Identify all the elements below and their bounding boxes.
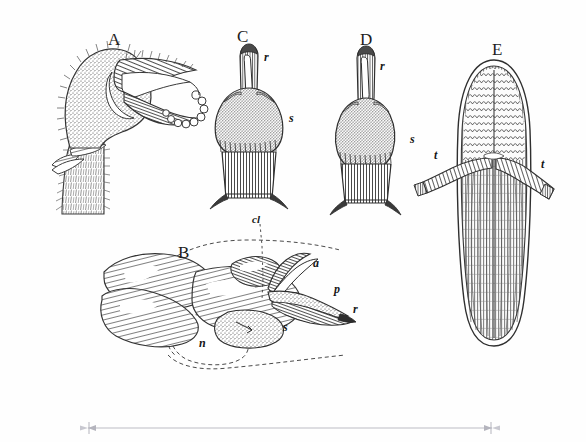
engraving-plate [0, 0, 586, 442]
part-label-s-b: s [283, 321, 288, 333]
part-label-a: a [313, 257, 319, 269]
part-label-t-right: t [541, 158, 544, 170]
figure-letter-d: D [360, 31, 373, 48]
part-label-p: p [334, 283, 340, 295]
part-label-s-d: s [410, 133, 415, 145]
part-label-cl: cl [252, 214, 260, 225]
part-label-s-c: s [289, 112, 294, 124]
part-label-t-left: t [434, 149, 437, 161]
part-label-r-b: r [353, 303, 358, 315]
figure-letter-b: B [178, 244, 190, 261]
figure-letter-c: C [237, 28, 249, 45]
figure-letter-e: E [492, 41, 503, 58]
part-label-r-d: r [380, 60, 385, 72]
part-label-r-c: r [264, 51, 269, 63]
figure-letter-a: A [108, 31, 121, 48]
part-label-n: n [199, 337, 206, 349]
